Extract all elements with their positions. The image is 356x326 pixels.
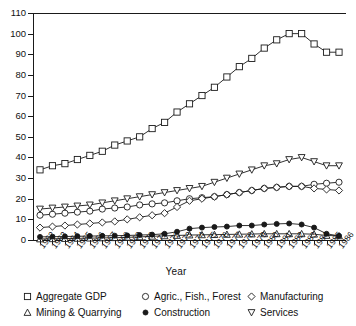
legend-item-agric-fish-forest[interactable]: Agric., Fish., Forest [138, 291, 241, 302]
x-axis-title: Year [0, 266, 352, 277]
legend-item-label: Mining & Quarrying [36, 307, 122, 318]
legend-item-label: Services [260, 307, 298, 318]
filled-circle-icon [138, 307, 152, 318]
chart-legend: Aggregate GDPAgric., Fish., ForestManufa… [20, 288, 342, 320]
legend-item-label: Agric., Fish., Forest [154, 291, 241, 302]
legend-item-construction[interactable]: Construction [138, 307, 210, 318]
legend-item-manufacturing[interactable]: Manufacturing [244, 291, 323, 302]
legend-item-label: Manufacturing [260, 291, 323, 302]
legend-row: Mining & QuarryingConstructionServices [20, 304, 342, 320]
legend-item-label: Construction [154, 307, 210, 318]
open-circle-icon [138, 291, 152, 302]
legend-item-label: Aggregate GDP [36, 291, 107, 302]
legend-item-services[interactable]: Services [244, 307, 298, 318]
legend-item-mining-quarrying[interactable]: Mining & Quarrying [20, 307, 122, 318]
open-square-icon [20, 291, 34, 302]
open-triangle-up-icon [20, 307, 34, 318]
open-diamond-icon [244, 291, 258, 302]
legend-row: Aggregate GDPAgric., Fish., ForestManufa… [20, 288, 342, 304]
open-triangle-down-icon [244, 307, 258, 318]
legend-item-aggregate-gdp[interactable]: Aggregate GDP [20, 291, 107, 302]
